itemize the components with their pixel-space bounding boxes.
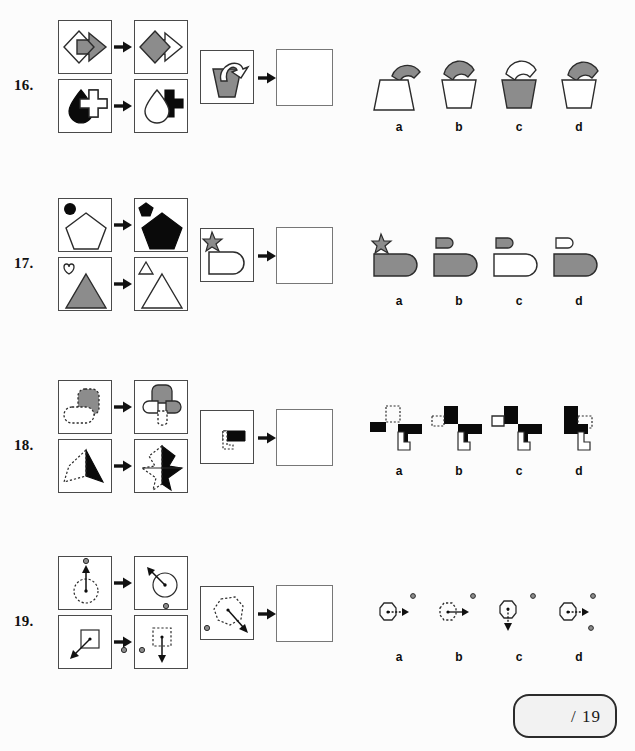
matrix-cell-r2c2 — [134, 615, 188, 669]
option-16-b[interactable]: b — [430, 56, 488, 112]
option-label: b — [430, 464, 488, 478]
transform-arrow-row2 — [113, 277, 133, 291]
option-label: d — [550, 650, 608, 664]
option-label: c — [490, 650, 548, 664]
option-17-c[interactable]: c — [490, 232, 548, 284]
question-number: 18. — [14, 437, 34, 454]
problem-arrow-17 — [257, 249, 277, 263]
option-art — [370, 588, 428, 638]
matrix-cell-r1c1 — [58, 198, 112, 252]
option-art — [550, 56, 608, 112]
option-label: b — [430, 294, 488, 308]
problem-cell-16 — [200, 50, 254, 104]
option-18-b[interactable]: b — [430, 402, 488, 460]
answer-box-18[interactable] — [276, 409, 333, 466]
option-18-d[interactable]: d — [550, 402, 608, 460]
option-16-a[interactable]: a — [370, 56, 428, 112]
option-label: a — [370, 464, 428, 478]
transform-arrow-row2 — [113, 99, 133, 113]
option-label: a — [370, 650, 428, 664]
answer-box-17[interactable] — [276, 227, 333, 284]
option-17-d[interactable]: d — [550, 232, 608, 284]
problem-arrow-19 — [257, 607, 277, 621]
problem-cell-19 — [200, 586, 254, 640]
option-art — [430, 56, 488, 112]
question-number: 16. — [14, 77, 34, 94]
answer-box-16[interactable] — [276, 49, 333, 106]
option-label: b — [430, 120, 488, 134]
question-number: 17. — [14, 255, 34, 272]
score-text: / 19 — [571, 707, 601, 727]
matrix-cell-r2c2 — [134, 257, 188, 311]
option-art — [490, 402, 548, 460]
problem-arrow-18 — [257, 431, 277, 445]
option-label: c — [490, 464, 548, 478]
option-label: d — [550, 464, 608, 478]
question-number: 19. — [14, 613, 34, 630]
option-label: d — [550, 120, 608, 134]
matrix-cell-r1c2 — [134, 20, 188, 74]
option-art — [550, 402, 608, 460]
row2-dot-left — [120, 646, 128, 654]
option-label: a — [370, 120, 428, 134]
option-art — [370, 56, 428, 112]
option-17-b[interactable]: b — [430, 232, 488, 284]
problem-cell-17 — [200, 228, 254, 282]
matrix-cell-r2c2 — [134, 79, 188, 133]
transform-arrow-row1 — [113, 576, 133, 590]
option-art — [550, 588, 608, 638]
option-label: b — [430, 650, 488, 664]
row2-dot-right — [138, 646, 146, 654]
answer-box-19[interactable] — [276, 585, 333, 642]
option-art — [490, 588, 548, 638]
matrix-cell-r2c1 — [58, 615, 112, 669]
option-16-c[interactable]: c — [490, 56, 548, 112]
option-19-b[interactable]: b — [430, 588, 488, 638]
option-art — [430, 402, 488, 460]
option-art — [370, 402, 428, 460]
matrix-cell-r2c1 — [58, 439, 112, 493]
option-art — [370, 232, 428, 284]
option-art — [490, 56, 548, 112]
matrix-cell-r2c2 — [134, 439, 188, 493]
option-label: c — [490, 294, 548, 308]
problem-cell-18 — [200, 410, 254, 464]
option-19-d[interactable]: d — [550, 588, 608, 638]
matrix-cell-r1c1 — [58, 556, 112, 610]
matrix-cell-r1c2 — [134, 380, 188, 434]
option-19-c[interactable]: c — [490, 588, 548, 638]
option-18-a[interactable]: a — [370, 402, 428, 460]
matrix-cell-r1c2 — [134, 198, 188, 252]
option-16-d[interactable]: d — [550, 56, 608, 112]
option-19-a[interactable]: a — [370, 588, 428, 638]
option-18-c[interactable]: c — [490, 402, 548, 460]
option-art — [490, 232, 548, 284]
transform-arrow-row1 — [113, 40, 133, 54]
matrix-cell-r2c1 — [58, 257, 112, 311]
option-17-a[interactable]: a — [370, 232, 428, 284]
option-label: a — [370, 294, 428, 308]
matrix-cell-r1c2 — [134, 556, 188, 610]
transform-arrow-row1 — [113, 400, 133, 414]
transform-arrow-row2 — [113, 459, 133, 473]
option-art — [430, 232, 488, 284]
option-art — [430, 588, 488, 638]
problem-arrow-16 — [257, 71, 277, 85]
matrix-cell-r1c1 — [58, 380, 112, 434]
score-box[interactable]: / 19 — [513, 694, 617, 738]
option-label: d — [550, 294, 608, 308]
matrix-cell-r2c1 — [58, 79, 112, 133]
transform-arrow-row1 — [113, 218, 133, 232]
option-art — [550, 232, 608, 284]
matrix-cell-r1c1 — [58, 20, 112, 74]
option-label: c — [490, 120, 548, 134]
test-page: 16. — [0, 0, 635, 751]
